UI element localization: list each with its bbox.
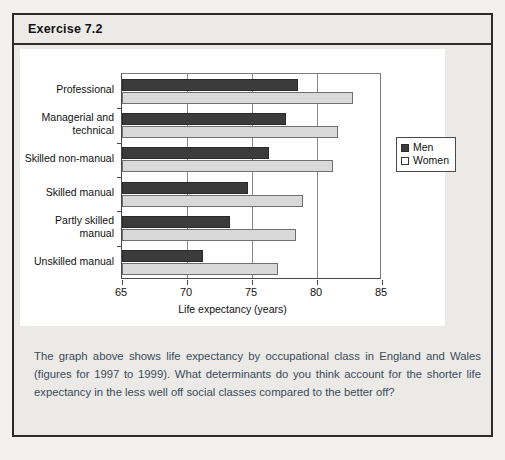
x-axis-title: Life expectancy (years) xyxy=(20,303,445,315)
x-gridline xyxy=(252,74,253,278)
plot-area xyxy=(121,73,381,279)
category-label-line: Skilled non-manual xyxy=(0,152,114,165)
bar-women-2 xyxy=(122,126,338,138)
x-tick-label: 65 xyxy=(106,286,136,298)
x-gridline xyxy=(317,74,318,278)
legend-label: Women xyxy=(413,154,449,167)
category-label-line: manual xyxy=(0,227,114,240)
y-tick xyxy=(117,143,122,144)
y-tick xyxy=(117,108,122,109)
bar-women-1 xyxy=(122,92,353,104)
bar-men-1 xyxy=(122,79,298,91)
x-tick xyxy=(317,280,318,285)
category-label-line: Professional xyxy=(0,83,114,96)
category-label-1: Professional xyxy=(0,83,114,96)
bar-women-5 xyxy=(122,229,296,241)
legend-item-women: Women xyxy=(401,154,449,167)
legend-item-men: Men xyxy=(401,141,449,154)
category-label-6: Unskilled manual xyxy=(0,255,114,268)
x-tick xyxy=(187,280,188,285)
bar-women-6 xyxy=(122,263,278,275)
category-label-5: Partly skilledmanual xyxy=(0,214,114,239)
x-gridline xyxy=(187,74,188,278)
y-tick xyxy=(117,177,122,178)
x-tick-label: 85 xyxy=(366,286,396,298)
x-tick-label: 70 xyxy=(171,286,201,298)
category-label-3: Skilled non-manual xyxy=(0,152,114,165)
exercise-header: Exercise 7.2 xyxy=(14,15,491,45)
x-tick-label: 75 xyxy=(236,286,266,298)
category-label-4: Skilled manual xyxy=(0,186,114,199)
legend-swatch-men-icon xyxy=(401,144,409,152)
exercise-caption: The graph above shows life expectancy by… xyxy=(34,347,481,401)
y-tick xyxy=(117,211,122,212)
exercise-box: Exercise 7.2 Life expectancy (years) Men… xyxy=(12,13,493,437)
x-tick-label: 80 xyxy=(301,286,331,298)
x-tick xyxy=(382,280,383,285)
category-label-line: Partly skilled xyxy=(0,214,114,227)
legend-label: Men xyxy=(413,141,433,154)
category-label-line: Managerial and xyxy=(0,111,114,124)
legend-swatch-women-icon xyxy=(401,157,409,165)
bar-women-3 xyxy=(122,160,333,172)
bar-men-4 xyxy=(122,182,248,194)
x-tick xyxy=(122,280,123,285)
bar-women-4 xyxy=(122,195,303,207)
y-tick xyxy=(117,246,122,247)
category-label-2: Managerial andtechnical xyxy=(0,111,114,136)
screenshot-root: Exercise 7.2 Life expectancy (years) Men… xyxy=(0,0,505,460)
category-label-line: Unskilled manual xyxy=(0,255,114,268)
category-label-line: technical xyxy=(0,124,114,137)
bar-men-2 xyxy=(122,113,286,125)
chart-legend: MenWomen xyxy=(396,137,456,172)
bar-men-6 xyxy=(122,250,203,262)
bar-men-5 xyxy=(122,216,230,228)
x-tick xyxy=(252,280,253,285)
exercise-title: Exercise 7.2 xyxy=(28,22,103,36)
chart-panel: Life expectancy (years) MenWomen 6570758… xyxy=(20,49,445,326)
bar-men-3 xyxy=(122,147,269,159)
category-label-line: Skilled manual xyxy=(0,186,114,199)
